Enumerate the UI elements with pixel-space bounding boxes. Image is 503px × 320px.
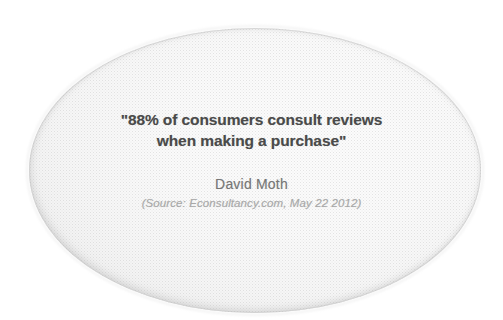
- quote-card-page: "88% of consumers consult reviews when m…: [0, 0, 503, 320]
- ellipse-outline: [29, 28, 481, 313]
